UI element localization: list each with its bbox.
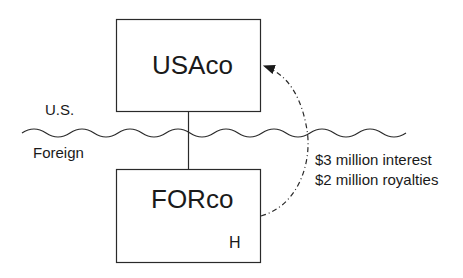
diagram-canvas: USAco FORco H U.S. Foreign $3 million in… — [0, 0, 463, 278]
usaco-label: USAco — [152, 50, 233, 81]
forco-label: FORco — [151, 184, 233, 215]
border-wave-line — [22, 129, 406, 137]
region-us-label: U.S. — [45, 101, 74, 118]
hybrid-marker-label: H — [229, 234, 241, 252]
flow-label-interest: $3 million interest — [315, 150, 432, 170]
flow-label-royalties: $2 million royalties — [315, 170, 438, 190]
payment-flow-arrow — [261, 66, 308, 216]
region-foreign-label: Foreign — [33, 144, 84, 161]
